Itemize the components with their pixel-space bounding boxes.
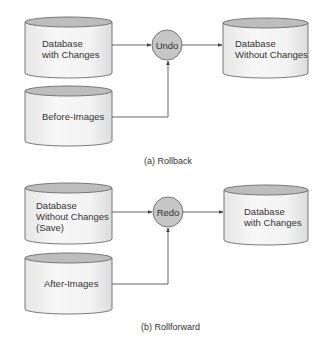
recovery-diagram: Database with Changes Before-Images Undo… [0, 0, 328, 346]
after-images-cylinder: After-Images [25, 253, 112, 314]
rollback-target-db-label-line2: Without Changes [235, 49, 308, 60]
rollback-target-db-label-line1: Database [235, 38, 276, 49]
rollback-source-database-cylinder: Database with Changes [25, 17, 112, 78]
rollforward-source-database-cylinder: Database Without Changes (Save) [25, 183, 112, 244]
rollforward-target-database-cylinder: Database with Changes [224, 185, 308, 245]
rollback-target-database-cylinder: Database Without Changes [223, 18, 308, 78]
rollforward-target-db-label-line1: Database [244, 206, 285, 217]
rollback-source-db-label-line1: Database [42, 38, 83, 49]
redo-label: Redo [157, 207, 180, 218]
before-images-label: Before-Images [42, 111, 105, 122]
arrow-after-images-to-redo [112, 228, 168, 284]
rollforward-target-db-label-line2: with Changes [243, 217, 302, 228]
rollforward-source-db-label-line3: (Save) [36, 222, 64, 233]
after-images-label: After-Images [44, 278, 99, 289]
redo-process-node: Redo [153, 197, 183, 227]
rollback-source-db-label-line2: with Changes [41, 49, 100, 60]
rollforward-panel: Database Without Changes (Save) After-Im… [25, 183, 308, 332]
undo-label: Undo [156, 40, 179, 51]
rollforward-caption: (b) Rollforward [141, 322, 200, 332]
rollback-caption: (a) Rollback [144, 156, 193, 166]
rollback-panel: Database with Changes Before-Images Undo… [25, 17, 308, 166]
undo-process-node: Undo [152, 30, 182, 60]
rollforward-source-db-label-line2: Without Changes [36, 211, 109, 222]
before-images-cylinder: Before-Images [25, 86, 112, 146]
rollforward-source-db-label-line1: Database [36, 200, 77, 211]
arrow-before-images-to-undo [112, 61, 168, 117]
